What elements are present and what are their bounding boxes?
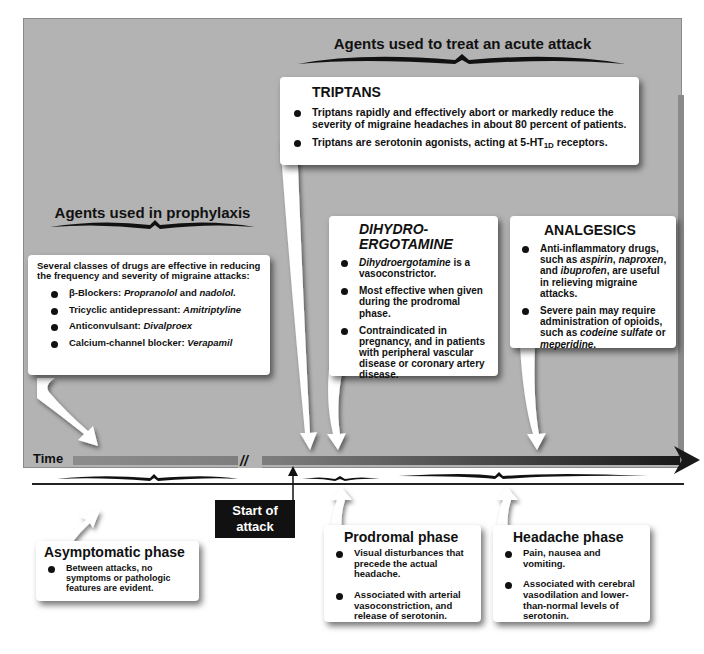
prodromal-brace xyxy=(302,476,380,481)
time-label: Time xyxy=(33,451,63,466)
dihydroergotamine-box: DIHYDRO- ERGOTAMINE Dihydroergotamine is… xyxy=(329,216,498,376)
prophylaxis-box: Several classes of drugs are effective i… xyxy=(28,255,270,375)
asymptomatic-brace xyxy=(57,474,238,481)
headache-item: Pain, nausea and vomiting. xyxy=(501,548,642,569)
dhe-title-line1: DIHYDRO- xyxy=(359,222,490,237)
prophylaxis-item: Calcium-channel blocker: Verapamil xyxy=(47,338,261,349)
triptans-item: Triptans rapidly and effectively abort o… xyxy=(290,107,629,131)
asymptomatic-item: Between attacks, no symptoms or patholog… xyxy=(44,563,191,593)
prophylaxis-item: Tricyclic antidepressant: Amitriptyline xyxy=(47,305,261,316)
headache-title: Headache phase xyxy=(501,529,642,545)
analgesics-item: Anti-inflammatory drugs, such as aspirin… xyxy=(518,243,668,299)
prodromal-item: Associated with arterial vasoconstrictio… xyxy=(332,590,473,622)
prophylaxis-heading: Agents used in prophylaxis xyxy=(50,204,255,221)
headache-phase-box: Headache phase Pain, nausea and vomiting… xyxy=(493,525,650,622)
dhe-title-line2: ERGOTAMINE xyxy=(359,237,490,252)
headache-brace xyxy=(398,472,648,479)
prophylaxis-intro: Several classes of drugs are effective i… xyxy=(37,261,261,282)
prodromal-item: Visual disturbances that precede the act… xyxy=(332,548,473,580)
analgesics-title: ANALGESICS xyxy=(518,222,668,238)
dhe-item: Dihydroergotamine is a vasoconstrictor. xyxy=(337,257,490,279)
prodromal-phase-box: Prodromal phase Visual disturbances that… xyxy=(324,525,481,622)
start-of-attack-label: Start of attack xyxy=(215,500,295,538)
prophylaxis-item: β-Blockers: Propranolol and nadolol. xyxy=(47,288,261,299)
analgesics-item: Severe pain may require administration o… xyxy=(518,305,668,350)
prophylaxis-item: Anticonvulsant: Divalproex xyxy=(47,321,261,332)
prodromal-title: Prodromal phase xyxy=(332,529,473,545)
panel-side-bar xyxy=(678,95,684,465)
dhe-item: Contraindicated in pregnancy, and in pat… xyxy=(337,325,490,381)
triptans-box: TRIPTANS Triptans rapidly and effectivel… xyxy=(280,77,639,165)
asymptomatic-title: Asymptomatic phase xyxy=(44,544,191,560)
bottom-rule xyxy=(32,483,684,485)
triptans-title: TRIPTANS xyxy=(290,84,629,100)
asymptomatic-phase-box: Asymptomatic phase Between attacks, no s… xyxy=(36,541,199,601)
analgesics-box: ANALGESICS Anti-inflammatory drugs, such… xyxy=(510,216,676,348)
acute-heading: Agents used to treat an acute attack xyxy=(300,35,625,52)
headache-item: Associated with cerebral vasodilation an… xyxy=(501,579,642,622)
dhe-item: Most effective when given during the pro… xyxy=(337,285,490,319)
triptans-item: Triptans are serotonin agonists, acting … xyxy=(290,137,629,151)
